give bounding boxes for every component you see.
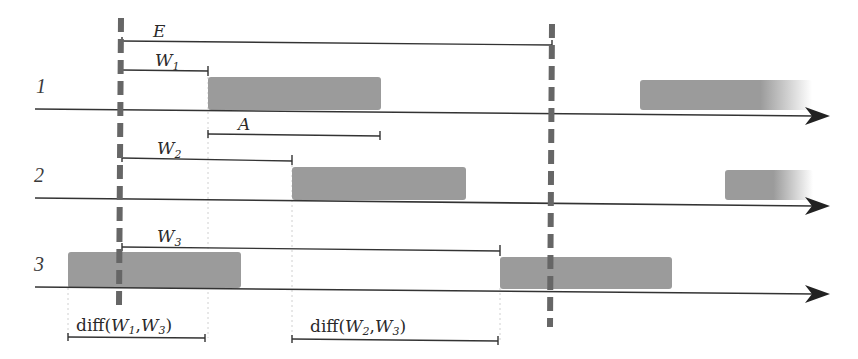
interval-a — [208, 130, 380, 140]
timeline-diagram: 1 2 3 E W1 A W2 W3 diff(W1,W3) diff(W2,W… — [0, 0, 858, 359]
label-w3: W3 — [157, 226, 181, 249]
row3-axis — [35, 287, 815, 294]
row-label-2: 2 — [34, 164, 44, 186]
label-diff-w1-w3: diff(W1,W3) — [76, 315, 172, 337]
row-label-3: 3 — [33, 253, 44, 275]
row1-block-2-faded — [640, 80, 812, 110]
row1-block-1 — [208, 77, 381, 110]
row1-axis — [35, 109, 815, 116]
label-w2: W2 — [157, 138, 181, 161]
interval-w2 — [122, 154, 292, 165]
row3-block-2 — [500, 257, 672, 289]
label-diff-w2-w3: diff(W2,W3) — [310, 316, 406, 338]
row2-block-1 — [292, 167, 466, 200]
interval-e — [122, 37, 552, 50]
row-label-1: 1 — [36, 75, 46, 97]
blocks — [68, 77, 813, 289]
left-dashed-marker — [119, 18, 121, 305]
label-w1: W1 — [155, 50, 179, 73]
right-dashed-marker — [550, 24, 552, 327]
row3-block-1 — [68, 252, 241, 288]
label-a: A — [236, 114, 250, 134]
label-e: E — [152, 21, 166, 41]
row2-block-2-faded — [725, 170, 813, 200]
